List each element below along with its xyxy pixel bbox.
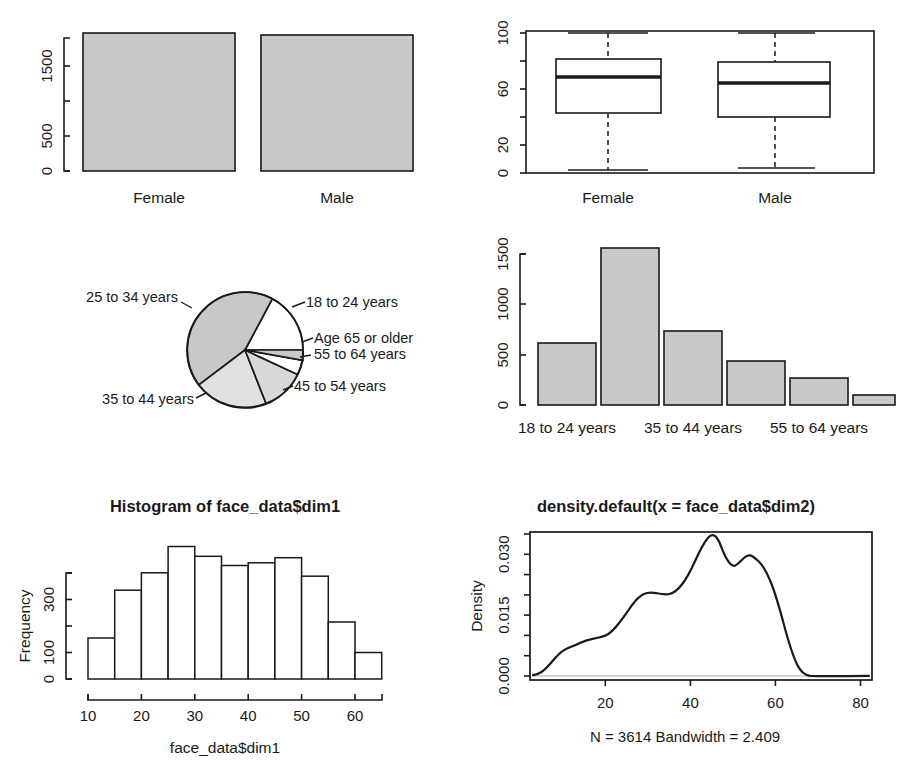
bar-female	[83, 33, 235, 171]
plot-frame	[530, 532, 872, 680]
bar-18-24	[538, 343, 596, 405]
y-tick-label: 1000	[494, 287, 511, 320]
x-category-label: 35 to 44 years	[644, 419, 742, 436]
y-tick-label: 0	[494, 401, 511, 409]
density-title: density.default(x = face_data$dim2)	[537, 497, 815, 515]
bar-35-44	[664, 331, 722, 405]
y-tick-label: 1500	[494, 237, 511, 270]
y-tick-label: 0	[494, 169, 511, 177]
pie-label-65-plus: Age 65 or older	[314, 330, 413, 346]
age-piechart-svg: 25 to 34 years 18 to 24 years Age 65 or …	[0, 230, 451, 460]
density-subtitle: N = 3614 Bandwidth = 2.409	[590, 728, 780, 745]
y-tick-label: 300	[40, 587, 57, 612]
hist-bin	[275, 558, 302, 679]
bar-45-54	[727, 361, 785, 405]
y-axis-label: Frequency	[16, 589, 33, 662]
pie-label-18-24: 18 to 24 years	[306, 294, 398, 310]
pie-label-55-64: 55 to 64 years	[314, 346, 406, 362]
x-category-label: Female	[582, 189, 634, 206]
dim2-density-svg: density.default(x = face_data$dim2) 0.00…	[451, 470, 902, 770]
hist-bin	[302, 576, 329, 679]
hist-bin	[168, 547, 195, 680]
y-tick-label: 1500	[38, 49, 55, 82]
pie-label-35-44: 35 to 44 years	[102, 391, 194, 407]
y-tick-label: 20	[494, 137, 511, 154]
age-barplot-svg: 0 500 1000 1500 18 to 24 years 35 to 44 …	[451, 230, 902, 460]
y-tick-label: 500	[494, 342, 511, 367]
panel-age-barplot: 0 500 1000 1500 18 to 24 years 35 to 44 …	[451, 230, 902, 460]
hist-bin	[195, 556, 222, 679]
x-tick-label: 60	[347, 707, 364, 724]
panel-gender-boxplot: 0 20 60 100 Female Male	[451, 0, 902, 230]
boxplot-male	[718, 33, 830, 168]
y-tick-label: 500	[38, 123, 55, 148]
y-tick-label: 0.000	[495, 657, 512, 695]
x-tick-label: 40	[240, 707, 257, 724]
y-axis: 0 500 1000 1500	[494, 237, 526, 409]
y-tick-label: 0.030	[495, 536, 512, 574]
x-tick-label: 40	[682, 694, 699, 711]
y-tick-label: 0.015	[495, 596, 512, 634]
hist-bin	[141, 573, 168, 679]
y-tick-label: 0	[40, 675, 57, 683]
x-tick-label: 80	[852, 694, 869, 711]
pie-slices	[187, 292, 303, 408]
bar-65-plus	[853, 395, 895, 405]
x-category-label: Male	[320, 189, 354, 206]
hist-bin	[328, 622, 355, 679]
panel-gender-barplot: 0 500 1500 Female Male	[0, 0, 451, 230]
x-category-label: 55 to 64 years	[770, 419, 868, 436]
x-category-label: Male	[758, 189, 792, 206]
histogram-bars	[88, 547, 382, 680]
y-axis: 0.000 0.015 0.030 Density	[468, 534, 530, 695]
gender-boxplot-svg: 0 20 60 100 Female Male	[451, 0, 902, 230]
panel-dim1-histogram: Histogram of face_data$dim1 0 100 300 Fr…	[0, 470, 451, 770]
hist-bin	[222, 566, 249, 680]
y-axis: 0 100 300 Frequency	[16, 573, 72, 683]
x-tick-label: 20	[133, 707, 150, 724]
hist-bin	[355, 653, 382, 680]
y-axis: 0 500 1500	[38, 38, 70, 175]
density-curve	[533, 535, 869, 676]
bar-55-64	[790, 378, 848, 405]
y-tick-label: 0	[38, 167, 55, 175]
histogram-title: Histogram of face_data$dim1	[110, 497, 340, 515]
x-axis: 20 40 60 80 N = 3614 Bandwidth = 2.409	[590, 680, 869, 745]
pie-label-45-54: 45 to 54 years	[294, 378, 386, 394]
y-axis: 0 20 60 100	[494, 20, 526, 177]
x-tick-label: 50	[293, 707, 310, 724]
boxplot-female	[556, 33, 661, 170]
x-tick-label: 20	[597, 694, 614, 711]
x-axis-label: face_data$dim1	[170, 739, 280, 756]
y-tick-label: 100	[494, 20, 511, 45]
pie-label-25-34: 25 to 34 years	[86, 289, 178, 305]
panel-dim2-density: density.default(x = face_data$dim2) 0.00…	[451, 470, 902, 770]
hist-bin	[88, 638, 115, 679]
hist-bin	[248, 563, 275, 679]
x-category-label: Female	[133, 189, 185, 206]
hist-bin	[115, 590, 142, 679]
y-axis-label: Density	[468, 580, 485, 632]
gender-barplot-svg: 0 500 1500 Female Male	[0, 0, 451, 230]
bar-male	[261, 35, 413, 171]
panel-age-piechart: 25 to 34 years 18 to 24 years Age 65 or …	[0, 230, 451, 460]
dim1-histogram-svg: Histogram of face_data$dim1 0 100 300 Fr…	[0, 470, 451, 770]
y-tick-label: 100	[40, 640, 57, 665]
x-tick-label: 60	[767, 694, 784, 711]
x-axis: 10 20 30 40 50 60 face_data$dim1	[80, 694, 382, 756]
x-category-label: 18 to 24 years	[518, 419, 616, 436]
x-tick-label: 10	[80, 707, 97, 724]
bar-25-34	[601, 248, 659, 405]
x-tick-label: 30	[186, 707, 203, 724]
y-tick-label: 60	[494, 81, 511, 98]
